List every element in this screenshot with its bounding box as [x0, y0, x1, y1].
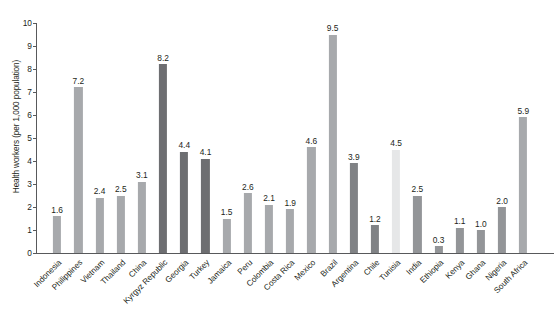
- bar-group: 2.5: [110, 23, 131, 253]
- bar-group: 1.0: [470, 23, 491, 253]
- x-axis-label-slot: Georgia: [174, 256, 195, 326]
- x-axis-label-slot: India: [407, 256, 428, 326]
- bar-value-label: 3.1: [136, 171, 148, 180]
- x-axis-line: [36, 253, 554, 254]
- x-axis-label-slot: Ethiopia: [428, 256, 449, 326]
- bar-value-label: 4.5: [390, 139, 402, 148]
- bar-chart: Health workers (per 1,000 population) 10…: [0, 0, 558, 328]
- bar-group: 4.5: [386, 23, 407, 253]
- bar-value-label: 2.5: [115, 185, 127, 194]
- x-axis-label: India: [405, 258, 424, 277]
- x-axis-label-slot: Ghana: [470, 256, 491, 326]
- bar-group: 3.9: [343, 23, 364, 253]
- bar-value-label: 3.9: [348, 153, 360, 162]
- bar-value-label: 5.9: [517, 107, 529, 116]
- x-axis-label-slot: South Africa: [513, 256, 534, 326]
- bar[interactable]: [498, 207, 506, 253]
- x-axis-label-slot: Vietnam: [89, 256, 110, 326]
- bar-value-label: 2.0: [496, 197, 508, 206]
- bar[interactable]: [286, 209, 294, 253]
- bar-group: 1.5: [216, 23, 237, 253]
- bar[interactable]: [392, 150, 400, 254]
- bar-value-label: 4.4: [178, 141, 190, 150]
- bar-group: 2.4: [89, 23, 110, 253]
- x-axis-label-slot: Argentina: [343, 256, 364, 326]
- y-axis-title: Health workers (per 1,000 population): [12, 27, 21, 227]
- bar[interactable]: [328, 35, 336, 254]
- bar-group: 1.6: [47, 23, 68, 253]
- bar[interactable]: [519, 117, 527, 253]
- y-axis-tick-label: 0: [8, 249, 32, 257]
- bar-value-label: 1.6: [51, 206, 63, 215]
- bar[interactable]: [477, 230, 485, 253]
- bar-group: 9.5: [322, 23, 343, 253]
- bar-group: 1.9: [280, 23, 301, 253]
- bar-value-label: 1.5: [221, 208, 233, 217]
- bar-value-label: 7.2: [73, 77, 85, 86]
- bar-group: 0.3: [428, 23, 449, 253]
- x-axis-label-slot: Kenya: [449, 256, 470, 326]
- y-axis-tick-label: 10: [8, 19, 32, 27]
- bar-group: 1.1: [449, 23, 470, 253]
- y-axis-tick-mark: [33, 253, 36, 254]
- bar[interactable]: [138, 182, 146, 253]
- bar-value-label: 2.6: [242, 183, 254, 192]
- bar[interactable]: [371, 225, 379, 253]
- x-axis-label-slot: Turkey: [195, 256, 216, 326]
- bar-group: 1.2: [364, 23, 385, 253]
- y-axis-tick-label: 4: [8, 157, 32, 165]
- bar[interactable]: [201, 159, 209, 253]
- bar-value-label: 4.6: [306, 137, 318, 146]
- bar[interactable]: [53, 216, 61, 253]
- bar-group: 4.6: [301, 23, 322, 253]
- y-axis-tick-label: 1: [8, 226, 32, 234]
- x-axis-labels: IndonesiaPhilippinesVietnamThailandChina…: [36, 256, 554, 326]
- bar-group: 2.0: [492, 23, 513, 253]
- x-axis-label-slot: Chile: [364, 256, 385, 326]
- bar[interactable]: [180, 152, 188, 253]
- bar-value-label: 2.4: [94, 187, 106, 196]
- bar[interactable]: [223, 219, 231, 254]
- bar[interactable]: [307, 147, 315, 253]
- bar[interactable]: [434, 246, 442, 253]
- bar-group: 3.1: [131, 23, 152, 253]
- bar-value-label: 4.1: [200, 148, 212, 157]
- x-axis-label-slot: Mexico: [301, 256, 322, 326]
- bar-value-label: 1.9: [284, 199, 296, 208]
- bar-value-label: 0.3: [433, 236, 445, 245]
- y-axis-tick-label: 9: [8, 42, 32, 50]
- bar[interactable]: [74, 87, 82, 253]
- bar[interactable]: [159, 64, 167, 253]
- plot-area: 109876543210 1.67.22.42.53.18.24.44.11.5…: [36, 23, 554, 253]
- bar-group: 4.1: [195, 23, 216, 253]
- bar-value-label: 2.5: [412, 185, 424, 194]
- x-axis-label-slot: Brazil: [322, 256, 343, 326]
- clipped-header-strip: [0, 0, 558, 5]
- bar-value-label: 1.2: [369, 215, 381, 224]
- bar-group: 7.2: [68, 23, 89, 253]
- bar-value-label: 8.2: [157, 54, 169, 63]
- bar-value-label: 9.5: [327, 24, 339, 33]
- bar[interactable]: [117, 196, 125, 254]
- bar-group: 2.1: [258, 23, 279, 253]
- bar-group: 8.2: [153, 23, 174, 253]
- y-axis-tick-label: 2: [8, 203, 32, 211]
- x-axis-label-slot: Kyrgyz Republic: [153, 256, 174, 326]
- y-axis-tick-label: 8: [8, 65, 32, 73]
- bar[interactable]: [95, 198, 103, 253]
- bar[interactable]: [413, 196, 421, 254]
- y-axis-tick-label: 7: [8, 88, 32, 96]
- bar-value-label: 1.1: [454, 217, 466, 226]
- bar-series: 1.67.22.42.53.18.24.44.11.52.62.11.94.69…: [36, 23, 554, 253]
- y-axis-tick-label: 6: [8, 111, 32, 119]
- bar-group: 2.5: [407, 23, 428, 253]
- bar-value-label: 2.1: [263, 194, 275, 203]
- bar[interactable]: [350, 163, 358, 253]
- bar-group: 4.4: [174, 23, 195, 253]
- x-axis-label-slot: Tunisia: [386, 256, 407, 326]
- bar[interactable]: [456, 228, 464, 253]
- bar-value-label: 1.0: [475, 220, 487, 229]
- x-axis-label-slot: Jamaica: [216, 256, 237, 326]
- bar[interactable]: [244, 193, 252, 253]
- bar[interactable]: [265, 205, 273, 253]
